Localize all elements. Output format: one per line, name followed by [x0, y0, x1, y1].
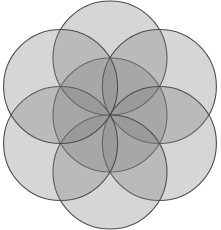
circle-upper-left	[4, 30, 118, 144]
rosette-canvas	[0, 0, 221, 230]
circle-group	[4, 1, 217, 229]
rosette-figure	[0, 0, 221, 230]
